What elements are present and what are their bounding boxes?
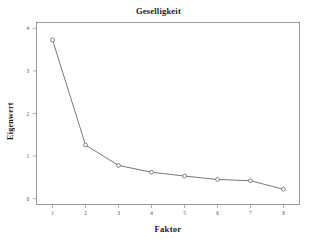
y-tick-label: 4 xyxy=(15,25,29,31)
y-axis-tick-marks xyxy=(33,28,36,198)
x-tick-label: 3 xyxy=(112,210,126,216)
x-tick-label: 5 xyxy=(178,210,192,216)
eigenvalue-line xyxy=(53,40,284,189)
data-point-marker xyxy=(51,38,55,42)
data-point-marker xyxy=(150,170,154,174)
x-tick-label: 1 xyxy=(46,210,60,216)
data-point-marker xyxy=(216,178,220,182)
x-tick-label: 6 xyxy=(211,210,225,216)
x-tick-label: 4 xyxy=(145,210,159,216)
y-tick-label: 1 xyxy=(15,153,29,159)
eigenvalue-markers xyxy=(51,38,286,191)
x-tick-label: 8 xyxy=(277,210,291,216)
data-point-marker xyxy=(84,143,88,147)
data-point-marker xyxy=(183,174,187,178)
x-tick-label: 7 xyxy=(244,210,258,216)
scree-plot-chart: Geselligkeit Eigenwert Faktor 01234 1234… xyxy=(0,0,317,244)
data-point-marker xyxy=(117,164,121,168)
x-axis-tick-marks xyxy=(53,205,284,208)
y-tick-label: 3 xyxy=(15,68,29,74)
chart-plot-layer xyxy=(0,0,317,244)
y-tick-label: 0 xyxy=(15,196,29,202)
data-point-marker xyxy=(249,179,253,183)
y-tick-label: 2 xyxy=(15,111,29,117)
data-point-marker xyxy=(282,187,286,191)
x-tick-label: 2 xyxy=(79,210,93,216)
